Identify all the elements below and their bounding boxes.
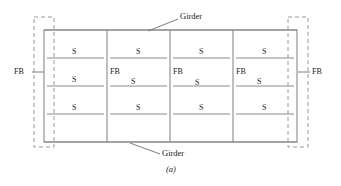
girder-top-label: Girder: [180, 12, 202, 21]
leader-girder-bottom: [130, 143, 160, 154]
stringer-label-b4-r1: S: [262, 48, 266, 56]
stringer-label-b2-r2: S: [131, 78, 135, 86]
stringer-label-b2-r3: S: [136, 104, 140, 112]
stringer-label-b4-r2: S: [257, 78, 261, 86]
stringer-label-b1-r3: S: [72, 104, 76, 112]
stringer-label-b3-r1: S: [199, 48, 203, 56]
leader-girder-top: [148, 19, 178, 31]
floor-beam-left-label: FB: [14, 68, 24, 76]
floor-beam-label-3: FB: [236, 68, 246, 76]
stringer-label-b2-r1: S: [136, 48, 140, 56]
end-floor-beam-box-right: [288, 17, 308, 147]
stringer-label-b1-r2: S: [72, 76, 76, 84]
floor-beam-right-label: FB: [312, 68, 322, 76]
floor-beam-label-2: FB: [173, 68, 183, 76]
figure-caption: (a): [166, 165, 176, 174]
stringer-label-b3-r2: S: [195, 79, 199, 87]
stringer-label-b1-r1: S: [72, 48, 76, 56]
figure-container: Girder Girder FB FB FB FB FB S S S S S S…: [0, 0, 341, 186]
stringer-label-b3-r3: S: [199, 104, 203, 112]
floor-beam-label-1: FB: [110, 68, 120, 76]
girder-bottom-label: Girder: [162, 149, 184, 158]
stringer-label-b4-r3: S: [262, 104, 266, 112]
framing-plan-drawing: [0, 0, 341, 186]
